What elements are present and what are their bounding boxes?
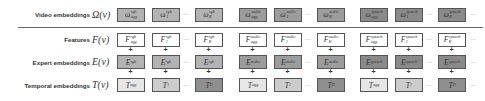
feature-box-rgb-K: FrgbK bbox=[195, 33, 223, 47]
temporal-box-rgb-K: TD bbox=[195, 78, 223, 92]
temporal-box-speech-K: TD bbox=[438, 78, 466, 92]
plus-sign: + bbox=[329, 68, 333, 75]
plus-sign: + bbox=[164, 68, 168, 75]
expert-box-rgb-agg: Ergb bbox=[117, 55, 145, 69]
omega-box-rgb-K: ωrgbK bbox=[195, 8, 223, 22]
ellipsis: ··· bbox=[305, 11, 311, 17]
row-label-feature: Features bbox=[64, 36, 90, 43]
temporal-box-speech-agg: Tagg bbox=[360, 78, 388, 92]
plus-sign: + bbox=[286, 68, 290, 75]
plus-sign: + bbox=[407, 46, 411, 53]
row-label-omega: Video embeddings bbox=[35, 11, 90, 18]
omega-box-audio-K: ωaudioK bbox=[317, 8, 345, 22]
expert-box-audio-agg: Eaudio bbox=[239, 55, 267, 69]
expert-box-rgb-1: Ergb bbox=[152, 55, 180, 69]
omega-box-audio-1: ωaudio1 bbox=[274, 8, 302, 22]
ellipsis: ··· bbox=[305, 82, 311, 88]
row-symbol-omega: Ω(v) bbox=[92, 9, 110, 20]
omega-box-rgb-1: ωrgb1 bbox=[152, 8, 180, 22]
ellipsis-end: ··· bbox=[470, 82, 476, 88]
plus-sign: + bbox=[372, 68, 376, 75]
feature-box-audio-agg: Faudioagg bbox=[239, 33, 267, 47]
ellipsis: ··· bbox=[183, 59, 189, 65]
temporal-box-audio-1: T1 bbox=[274, 78, 302, 92]
feature-box-rgb-1: Frgb1 bbox=[152, 33, 180, 47]
ellipsis: ··· bbox=[183, 82, 189, 88]
omega-box-speech-agg: ωspeechagg bbox=[360, 8, 388, 22]
temporal-box-rgb-agg: Tagg bbox=[117, 78, 145, 92]
plus-sign: + bbox=[450, 46, 454, 53]
plus-sign: + bbox=[129, 46, 133, 53]
ellipsis: ··· bbox=[426, 59, 432, 65]
expert-box-speech-agg: Espeech bbox=[360, 55, 388, 69]
ellipsis: ··· bbox=[183, 36, 189, 42]
row-label-expert: Expert embeddings bbox=[33, 59, 90, 66]
feature-box-speech-1: Fspeech1 bbox=[395, 33, 423, 47]
ellipsis-end: ··· bbox=[470, 36, 476, 42]
ellipsis: ··· bbox=[183, 11, 189, 17]
feature-box-rgb-agg: Frgbagg bbox=[117, 33, 145, 47]
omega-box-audio-agg: ωaudioagg bbox=[239, 8, 267, 22]
temporal-box-speech-1: T1 bbox=[395, 78, 423, 92]
plus-sign: + bbox=[450, 68, 454, 75]
plus-sign: + bbox=[286, 46, 290, 53]
feature-box-speech-agg: Fspeechagg bbox=[360, 33, 388, 47]
expert-box-audio-1: Eaudio bbox=[274, 55, 302, 69]
plus-sign: + bbox=[251, 46, 255, 53]
temporal-box-rgb-1: T1 bbox=[152, 78, 180, 92]
ellipsis: ··· bbox=[305, 36, 311, 42]
omega-box-speech-1: ωspeech1 bbox=[395, 8, 423, 22]
plus-sign: + bbox=[372, 46, 376, 53]
plus-sign: + bbox=[129, 68, 133, 75]
row-symbol-temporal: T(v) bbox=[92, 79, 109, 90]
omega-box-speech-K: ωspeechK bbox=[438, 8, 466, 22]
divider-line bbox=[18, 27, 483, 28]
temporal-box-audio-agg: Tagg bbox=[239, 78, 267, 92]
expert-box-speech-K: Espeech bbox=[438, 55, 466, 69]
plus-sign: + bbox=[207, 68, 211, 75]
row-label-temporal: Temporal embeddings bbox=[24, 82, 90, 89]
feature-box-speech-K: FspeechK bbox=[438, 33, 466, 47]
ellipsis: ··· bbox=[426, 36, 432, 42]
expert-box-audio-K: Eaudio bbox=[317, 55, 345, 69]
feature-box-audio-K: FaudioK bbox=[317, 33, 345, 47]
temporal-box-audio-K: TD bbox=[317, 78, 345, 92]
ellipsis-end: ··· bbox=[470, 59, 476, 65]
row-symbol-expert: E(v) bbox=[92, 56, 109, 67]
expert-box-rgb-K: Ergb bbox=[195, 55, 223, 69]
ellipsis: ··· bbox=[426, 82, 432, 88]
plus-sign: + bbox=[164, 46, 168, 53]
plus-sign: + bbox=[329, 46, 333, 53]
omega-box-rgb-agg: ωrgbagg bbox=[117, 8, 145, 22]
ellipsis-end: ··· bbox=[470, 11, 476, 17]
row-symbol-feature: F(v) bbox=[92, 34, 109, 45]
ellipsis: ··· bbox=[426, 11, 432, 17]
plus-sign: + bbox=[251, 68, 255, 75]
expert-box-speech-1: Espeech bbox=[395, 55, 423, 69]
ellipsis: ··· bbox=[305, 59, 311, 65]
feature-box-audio-1: Faudio1 bbox=[274, 33, 302, 47]
plus-sign: + bbox=[407, 68, 411, 75]
plus-sign: + bbox=[207, 46, 211, 53]
